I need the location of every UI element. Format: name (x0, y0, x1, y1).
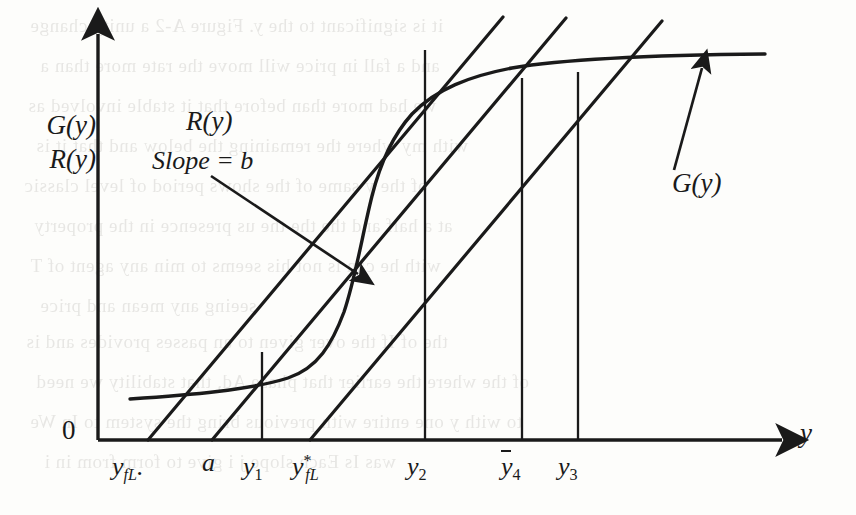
revenue-line-1 (148, 17, 503, 440)
tick-sub: fL (305, 466, 318, 483)
tick-label-y3: y3 (558, 452, 578, 484)
g-label-annotation-arrow (674, 68, 702, 170)
curve-label-r-text: R(y) (186, 106, 232, 136)
y-axis-label-r: R(y) (16, 144, 96, 175)
slope-label-text: Slope = b (152, 146, 253, 175)
y-axis-label-g-text: G(y) (47, 110, 96, 140)
tick-base: y (407, 452, 419, 481)
y-axis-label-g: G(y) (16, 110, 96, 141)
tick-label-y4-bar: y4 (501, 452, 521, 484)
tick-sub: 3 (570, 466, 578, 483)
tick-sub: 4 (513, 466, 521, 483)
overbar-wrap: y (501, 452, 513, 482)
overbar-icon (501, 450, 510, 452)
tick-base: y (501, 452, 513, 481)
curve-label-g-text: G(y) (672, 168, 721, 198)
origin-label-text: 0 (62, 415, 76, 445)
plot-svg (0, 0, 856, 515)
origin-label: 0 (62, 415, 76, 446)
x-axis-name: y (800, 418, 812, 449)
tick-base: y (292, 452, 304, 481)
tick-label-y-fl-star: y*fL (292, 452, 319, 484)
tick-sub: fL (124, 466, 137, 483)
y-axis-label-r-text: R(y) (50, 144, 96, 174)
tick-label-y2: y2 (407, 452, 427, 484)
tick-base: y (558, 452, 570, 481)
slope-label: Slope = b (152, 146, 253, 176)
tick-sub: 2 (419, 466, 427, 483)
tick-label-y1: y1 (243, 452, 263, 484)
tick-base: a (202, 448, 215, 477)
tick-base: y (243, 452, 255, 481)
slope-annotation-arrow (211, 176, 358, 274)
tick-base: y (112, 452, 124, 481)
tick-label-y-fl-dot: yfL. (112, 452, 143, 484)
revenue-line-2 (212, 18, 566, 440)
curve-label-r: R(y) (186, 106, 232, 137)
figure-canvas: it is significant to the y. Figure A-2 a… (0, 0, 856, 515)
curve-label-g: G(y) (672, 168, 721, 199)
tick-sub: 1 (255, 466, 263, 483)
tick-trailing: . (137, 452, 144, 481)
tick-label-a: a (202, 448, 215, 478)
x-axis-name-text: y (800, 418, 812, 448)
